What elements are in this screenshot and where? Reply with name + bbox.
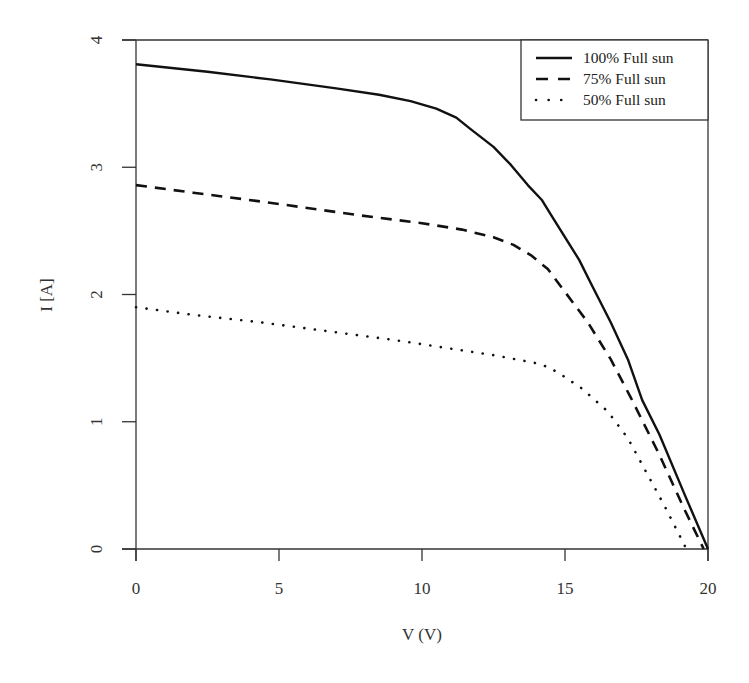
x-tick-label: 0 xyxy=(132,579,141,598)
x-tick-label: 5 xyxy=(275,579,284,598)
y-tick-label: 3 xyxy=(87,163,106,172)
y-tick-label: 0 xyxy=(87,545,106,554)
legend-label: 50% Full sun xyxy=(583,91,666,108)
series-layer xyxy=(136,64,708,549)
x-tick-label: 20 xyxy=(700,579,717,598)
x-axis: 05101520 xyxy=(132,549,717,598)
legend: 100% Full sun75% Full sun50% Full sun xyxy=(521,40,708,120)
y-axis-title: I [A] xyxy=(37,278,56,312)
x-tick-label: 10 xyxy=(414,579,431,598)
y-tick-label: 1 xyxy=(87,418,106,427)
iv-curve-chart: 01234 05101520 V (V) I [A] 100% Full sun… xyxy=(0,0,749,683)
series-line-solid xyxy=(136,64,708,549)
x-tick-label: 15 xyxy=(557,579,574,598)
series-line-dashed xyxy=(136,185,704,549)
legend-label: 75% Full sun xyxy=(583,70,666,87)
y-tick-label: 4 xyxy=(87,35,106,44)
y-axis: 01234 xyxy=(87,35,136,553)
legend-label: 100% Full sun xyxy=(583,49,674,66)
series-line-dotted xyxy=(136,307,685,546)
y-tick-label: 2 xyxy=(87,290,106,299)
x-axis-title: V (V) xyxy=(402,625,442,644)
